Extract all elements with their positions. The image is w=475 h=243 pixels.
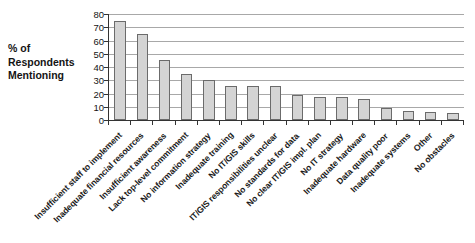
y-tick-label-60: 60 bbox=[84, 35, 104, 46]
x-tick-mark bbox=[330, 121, 331, 125]
x-tick-mark bbox=[308, 121, 309, 125]
x-tick-mark bbox=[152, 121, 153, 125]
bar bbox=[181, 74, 193, 120]
y-tick-label-30: 30 bbox=[84, 75, 104, 86]
x-tick-mark bbox=[286, 121, 287, 125]
y-tick-label-40: 40 bbox=[84, 62, 104, 73]
bar bbox=[447, 113, 459, 120]
y-tick-label-50: 50 bbox=[84, 48, 104, 59]
x-tick-mark bbox=[441, 121, 442, 125]
bar bbox=[159, 60, 171, 120]
y-tick-mark-50 bbox=[104, 54, 108, 55]
bar bbox=[247, 86, 259, 120]
x-axis-tick-marks bbox=[108, 121, 464, 126]
x-tick-mark bbox=[219, 121, 220, 125]
y-tick-mark-20 bbox=[104, 94, 108, 95]
x-tick-mark bbox=[419, 121, 420, 125]
bar-series bbox=[109, 14, 464, 120]
x-axis-label: Inadequate financial resources bbox=[52, 130, 146, 224]
y-tick-label-80: 80 bbox=[84, 9, 104, 20]
x-tick-mark bbox=[108, 121, 109, 125]
bar-chart-figure: % of Respondents Mentioning 010203040506… bbox=[0, 0, 475, 243]
y-tick-label-70: 70 bbox=[84, 22, 104, 33]
y-tick-mark-70 bbox=[104, 27, 108, 28]
x-tick-mark bbox=[374, 121, 375, 125]
y-tick-mark-10 bbox=[104, 107, 108, 108]
bar bbox=[292, 95, 304, 120]
bar bbox=[358, 99, 370, 120]
bar bbox=[336, 97, 348, 120]
y-tick-label-0: 0 bbox=[84, 115, 104, 126]
x-tick-mark bbox=[197, 121, 198, 125]
y-tick-mark-60 bbox=[104, 41, 108, 42]
x-tick-mark bbox=[396, 121, 397, 125]
x-tick-mark bbox=[463, 121, 464, 125]
x-tick-mark bbox=[241, 121, 242, 125]
y-axis-tick-labels: 01020304050607080 bbox=[82, 14, 104, 120]
bar bbox=[425, 112, 437, 120]
bar bbox=[203, 80, 215, 120]
bar bbox=[403, 111, 415, 120]
y-tick-label-10: 10 bbox=[84, 101, 104, 112]
x-tick-mark bbox=[352, 121, 353, 125]
y-tick-label-20: 20 bbox=[84, 88, 104, 99]
bar bbox=[314, 97, 326, 120]
bar bbox=[270, 86, 282, 120]
bar bbox=[114, 21, 126, 120]
x-tick-mark bbox=[263, 121, 264, 125]
y-tick-mark-80 bbox=[104, 14, 108, 15]
bar bbox=[381, 108, 393, 120]
plot-area bbox=[108, 14, 464, 121]
y-tick-mark-30 bbox=[104, 80, 108, 81]
x-tick-mark bbox=[175, 121, 176, 125]
x-tick-mark bbox=[130, 121, 131, 125]
bar bbox=[225, 86, 237, 120]
y-tick-mark-40 bbox=[104, 67, 108, 68]
y-tick-mark-0 bbox=[104, 120, 108, 121]
bar bbox=[137, 34, 149, 120]
